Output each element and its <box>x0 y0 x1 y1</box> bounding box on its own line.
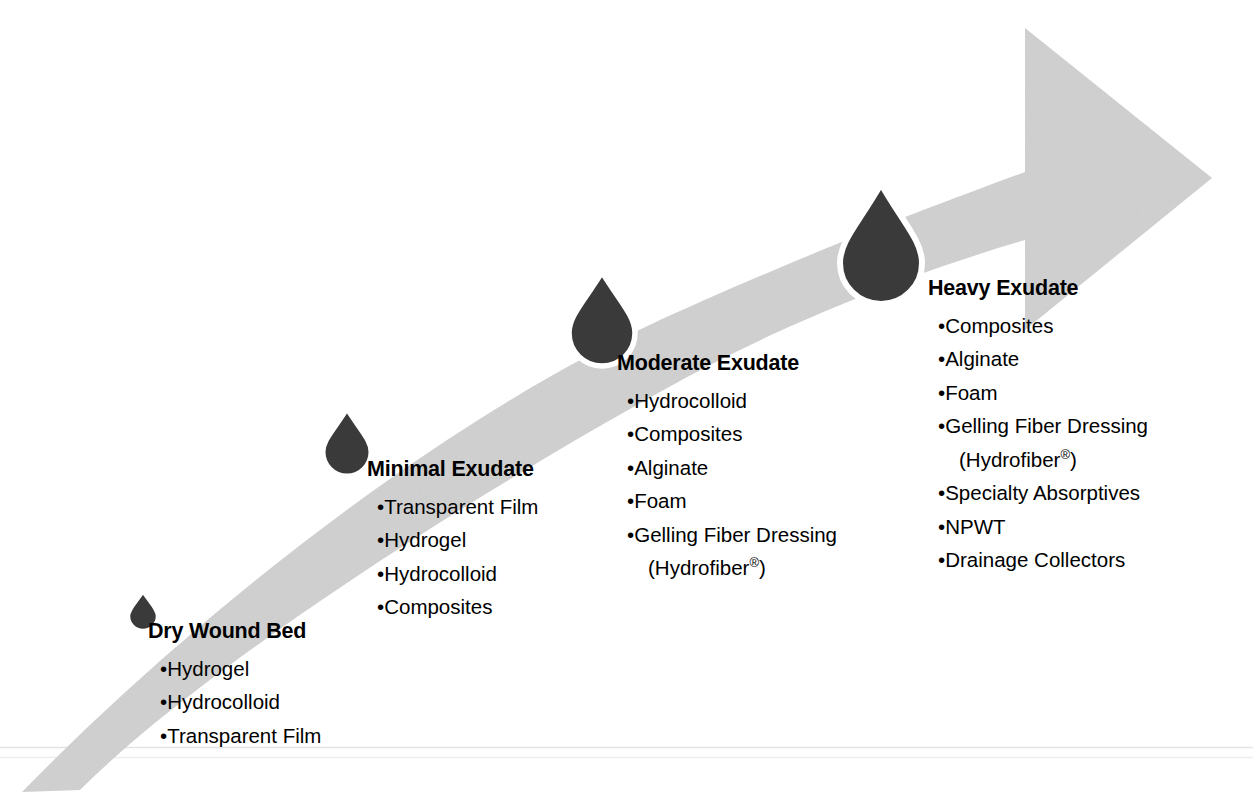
droplet-large <box>840 184 922 304</box>
list-item-label: Specialty Absorptives <box>945 481 1140 504</box>
list-item: •Composites <box>938 309 1148 343</box>
list-item: •Alginate <box>938 342 1148 376</box>
stage-moderate-exudate: Moderate Exudate •Hydrocolloid •Composit… <box>617 352 837 585</box>
list-item: •Foam <box>627 484 837 518</box>
stage-heading-moderate-exudate: Moderate Exudate <box>617 352 837 376</box>
list-item: •Hydrocolloid <box>160 685 321 719</box>
list-item: •Gelling Fiber Dressing(Hydrofiber®) <box>938 409 1148 476</box>
list-item-sublabel: (Hydrofiber®) <box>638 551 837 585</box>
list-item-label: Hydrocolloid <box>634 389 747 412</box>
list-item: •Drainage Collectors <box>938 543 1148 577</box>
list-item-label: Hydrogel <box>167 657 249 680</box>
list-item: •NPWT <box>938 510 1148 544</box>
droplet-small <box>323 409 371 476</box>
list-item-label: NPWT <box>945 515 1005 538</box>
stage-dry-wound-bed: Dry Wound Bed •Hydrogel •Hydrocolloid •T… <box>148 620 321 752</box>
list-item: •Transparent Film <box>160 719 321 753</box>
figure-canvas: Dry Wound Bed •Hydrogel •Hydrocolloid •T… <box>0 0 1253 800</box>
list-item-label: Hydrocolloid <box>167 690 280 713</box>
list-item: •Gelling Fiber Dressing(Hydrofiber®) <box>627 518 837 585</box>
list-item-label: Hydrocolloid <box>384 562 497 585</box>
stage-list-minimal-exudate: •Transparent Film •Hydrogel •Hydrocolloi… <box>377 490 538 624</box>
list-item-label: Composites <box>945 314 1053 337</box>
list-item-label: Composites <box>634 422 742 445</box>
stage-heading-heavy-exudate: Heavy Exudate <box>928 277 1148 301</box>
list-item-label: Composites <box>384 595 492 618</box>
list-item: •Transparent Film <box>377 490 538 524</box>
list-item-label: Transparent Film <box>167 724 321 747</box>
list-item: •Hydrogel <box>377 523 538 557</box>
list-item-label: Drainage Collectors <box>945 548 1125 571</box>
list-item-label: Alginate <box>634 456 708 479</box>
list-item-sublabel: (Hydrofiber®) <box>949 443 1148 477</box>
list-item: •Hydrogel <box>160 652 321 686</box>
list-item-label: Foam <box>945 381 997 404</box>
list-item-label: Foam <box>634 489 686 512</box>
list-item-label: Hydrogel <box>384 528 466 551</box>
list-item-label: Gelling Fiber Dressing <box>634 523 837 546</box>
list-item: •Hydrocolloid <box>627 384 837 418</box>
stage-list-heavy-exudate: •Composites •Alginate •Foam •Gelling Fib… <box>938 309 1148 577</box>
list-item: •Foam <box>938 376 1148 410</box>
list-item: •Specialty Absorptives <box>938 476 1148 510</box>
list-item-label: Gelling Fiber Dressing <box>945 414 1148 437</box>
list-item-label: Transparent Film <box>384 495 538 518</box>
list-item: •Composites <box>627 417 837 451</box>
stage-list-dry-wound-bed: •Hydrogel •Hydrocolloid •Transparent Fil… <box>160 652 321 753</box>
list-item: •Hydrocolloid <box>377 557 538 591</box>
stage-heavy-exudate: Heavy Exudate •Composites •Alginate •Foa… <box>928 277 1148 577</box>
list-item-label: Alginate <box>945 347 1019 370</box>
list-item: •Alginate <box>627 451 837 485</box>
stage-heading-minimal-exudate: Minimal Exudate <box>367 458 538 482</box>
stage-minimal-exudate: Minimal Exudate •Transparent Film •Hydro… <box>367 458 538 624</box>
stage-list-moderate-exudate: •Hydrocolloid •Composites •Alginate •Foa… <box>627 384 837 585</box>
stage-heading-dry-wound-bed: Dry Wound Bed <box>148 620 321 644</box>
list-item: •Composites <box>377 590 538 624</box>
